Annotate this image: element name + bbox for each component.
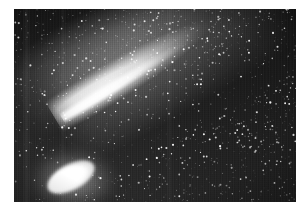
vignette-overlay — [14, 9, 296, 202]
comet-photograph — [14, 9, 296, 202]
page-canvas — [0, 0, 308, 216]
